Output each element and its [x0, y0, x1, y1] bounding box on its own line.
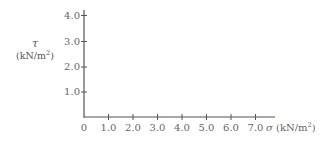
y-axis-unit: (kN/m2) [6, 50, 64, 62]
x-axis-label: σ (kN/m2) [266, 122, 316, 133]
x-tick-label-6: 6.0 [219, 123, 243, 133]
x-tick-label-2: 2.0 [121, 123, 145, 133]
x-axis-unit: (kN/m2) [276, 122, 316, 133]
x-tick-label-3: 3.0 [146, 123, 170, 133]
sigma-symbol: σ [266, 122, 273, 133]
x-tick-label-1: 1.0 [97, 123, 121, 133]
x-tick-label-5: 5.0 [195, 123, 219, 133]
x-tick-label-7: 7.0 [244, 123, 268, 133]
y-tick-label-1: 1.0 [58, 87, 80, 97]
y-tick-label-3: 3.0 [58, 37, 80, 47]
y-tick-label-4: 4.0 [58, 11, 80, 21]
tau-symbol: τ [6, 38, 64, 50]
x-tick-label-4: 4.0 [170, 123, 194, 133]
x-tick-label-0: 0 [72, 123, 96, 133]
y-axis-label: τ (kN/m2) [6, 38, 64, 62]
y-tick-label-2: 2.0 [58, 62, 80, 72]
empty-coordinate-plot: τ (kN/m2) 4.0 3.0 2.0 1.0 0 1.0 2.0 3.0 … [0, 0, 328, 143]
